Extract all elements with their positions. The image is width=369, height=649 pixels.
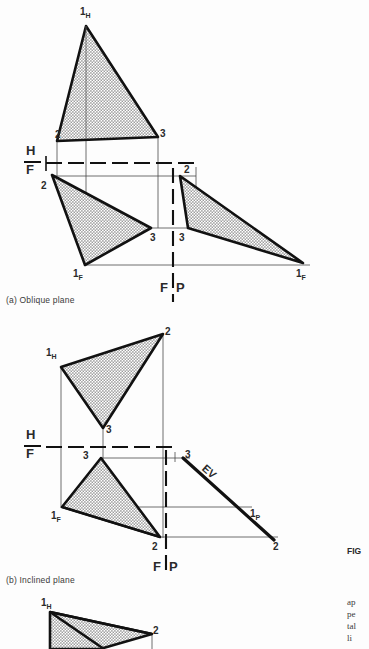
vertex-label-2-top-b: 2 [165, 326, 171, 337]
fold-label-f-fp-a: F [160, 280, 168, 295]
fold-label-f-fp-b: F [153, 559, 161, 574]
sidebar-figure-label: FIG [347, 546, 361, 556]
figure-c [50, 612, 152, 649]
vertex-label-1f-front-b: 1F [51, 510, 61, 523]
fold-label-h-a: H [26, 143, 35, 158]
fold-label-p-fp-b: P [169, 559, 178, 574]
vertex-label-3-top-a: 3 [160, 128, 166, 139]
fold-label-h-b: H [26, 427, 35, 442]
figure-b [46, 334, 278, 576]
vertex-label-2-profile-a: 2 [184, 164, 190, 175]
vertex-label-1h-b: 1H [46, 347, 57, 360]
triangle-profile-view-a [180, 176, 303, 263]
vertex-label-2-front-a: 2 [41, 180, 47, 191]
vertex-label-3-front-b: 3 [83, 450, 89, 461]
triangle-front-view-b [62, 458, 160, 537]
vertex-label-2-top-c: 2 [153, 625, 159, 636]
fold-label-f-a: F [26, 162, 34, 177]
fold-label-f-b: F [26, 446, 34, 461]
vertex-label-3-profile-a: 3 [179, 232, 185, 243]
vertex-label-1f-profile-a: 1F [296, 268, 306, 281]
sidebar-body-line-2: pe [347, 608, 356, 620]
sidebar-body-line-1: ap [347, 596, 356, 608]
vertex-label-1h-a: 1H [80, 6, 91, 19]
triangle-top-view-b [61, 334, 163, 428]
vertex-label-2-profile-b: 2 [273, 541, 279, 552]
vertex-label-1h-c: 1H [41, 597, 52, 610]
vertex-label-2-front-b: 2 [152, 541, 158, 552]
triangle-front-view-a [52, 175, 151, 265]
fold-label-p-fp-a: P [176, 280, 185, 295]
vertex-label-3-profile-b: 3 [185, 449, 191, 460]
caption-figure-b: (b) Inclined plane [6, 575, 75, 585]
vertex-label-2-top-a: 2 [55, 129, 61, 140]
sidebar-body-line-3: tal [347, 620, 356, 632]
vertex-label-3-front-a: 3 [150, 232, 156, 243]
caption-figure-a: (a) Oblique plane [6, 295, 75, 305]
triangle-top-view-a [57, 26, 158, 141]
vertex-label-3-top-b: 3 [106, 424, 112, 435]
vertex-label-1p-profile-b: 1P [250, 508, 260, 521]
technical-drawing-svg [0, 0, 369, 649]
page-canvas: 1H 2 3 H F 2 3 1F 2 3 1F F P (a) Oblique… [0, 0, 369, 649]
edge-view-line-b [183, 458, 274, 540]
sidebar-body-line-4: li [347, 632, 352, 644]
figure-a [46, 26, 310, 302]
vertex-label-1f-front-a: 1F [73, 268, 83, 281]
